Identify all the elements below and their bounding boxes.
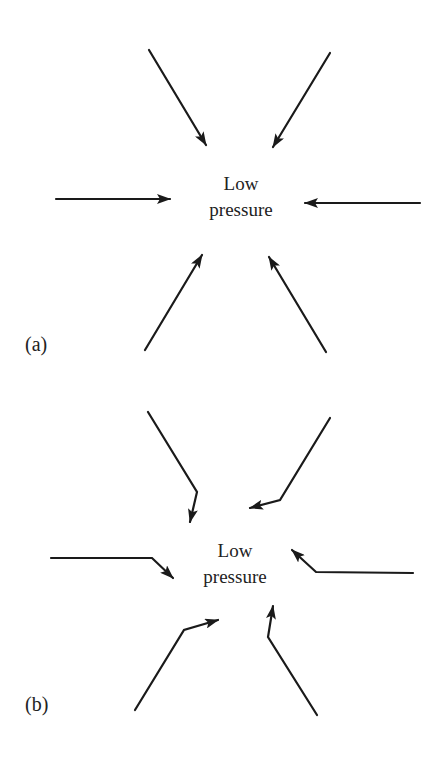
panel-b: Low pressure (b): [25, 412, 413, 716]
arrow-icon-a-bottom-left: [145, 255, 202, 350]
center-label-a-line1: Low: [224, 173, 259, 194]
center-label-b-line1: Low: [218, 540, 253, 561]
arrow-icon-a-bottom-right: [269, 257, 326, 352]
arrow-icon-b-top-right: [250, 418, 330, 508]
panel-a: Low pressure (a): [25, 50, 420, 356]
arrow-icon-b-top-left: [148, 412, 197, 522]
center-label-a-line2: pressure: [209, 199, 272, 220]
arrow-icon-b-right: [292, 550, 413, 573]
panel-label-a: (a): [25, 333, 47, 356]
arrow-icon-b-left: [51, 558, 173, 578]
arrow-icon-a-top-right: [273, 53, 330, 147]
arrow-icon-b-bottom-left: [135, 620, 218, 710]
center-label-b-line2: pressure: [203, 566, 266, 587]
arrow-icon-b-bottom-right: [268, 606, 317, 715]
panel-label-b: (b): [25, 693, 48, 716]
arrow-icon-a-top-left: [149, 50, 206, 145]
low-pressure-flow-diagram: Low pressure (a) Low pressure (b): [0, 0, 427, 758]
